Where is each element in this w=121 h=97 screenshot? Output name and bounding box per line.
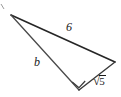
side-label-leg-b: b (34, 56, 40, 68)
radicand-value: 5 (99, 75, 106, 88)
side-label-hypotenuse: 6 (66, 21, 72, 33)
side-label-leg-root5: √5 (93, 74, 106, 88)
triangle-side-hypotenuse (11, 15, 115, 62)
radical-expression: √5 (93, 74, 106, 88)
triangle-figure: 6 b √5 (0, 0, 121, 97)
stray-mark (1, 4, 4, 9)
